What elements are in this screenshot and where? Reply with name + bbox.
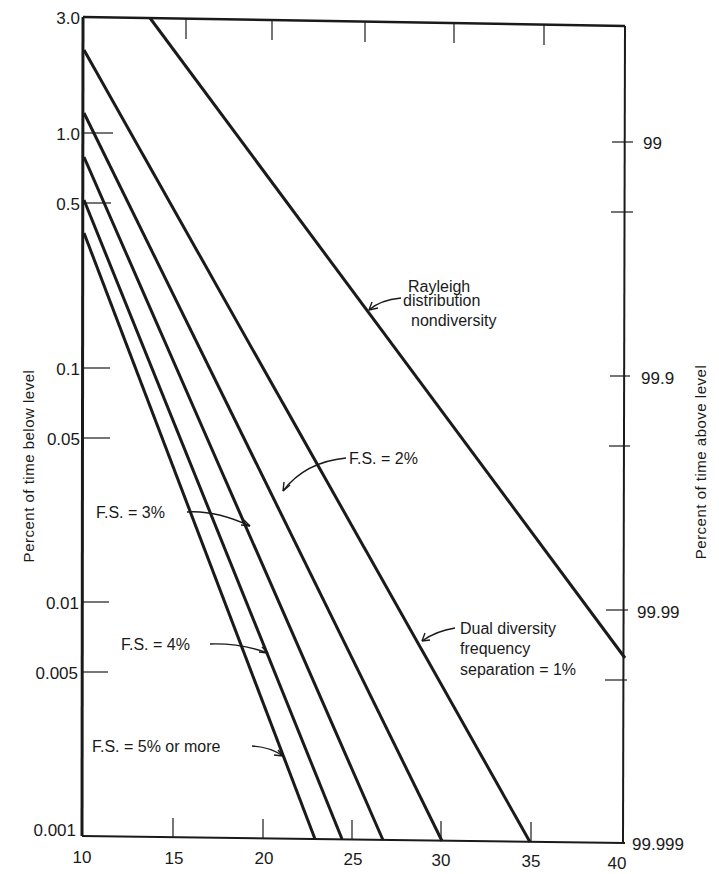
y-right-tick-99.999: 99.999 <box>632 835 684 854</box>
fade-distribution-chart: 3.0 1.0 0.5 0.1 0.05 0.01 0.005 0.001 99… <box>0 0 719 874</box>
ann-fs-2pct: F.S. = 2% <box>349 450 418 467</box>
x-tick-10: 10 <box>73 848 92 867</box>
y-tick-0.5: 0.5 <box>56 195 80 214</box>
y-tick-0.1: 0.1 <box>56 360 80 379</box>
ann-rayleigh-line2: distribution <box>403 292 480 309</box>
y-tick-0.01: 0.01 <box>46 594 79 613</box>
y-tick-0.05: 0.05 <box>47 430 80 449</box>
data-lines <box>84 18 625 842</box>
x-tick-30: 30 <box>432 851 451 870</box>
ann-fs-5pct: F.S. = 5% or more <box>92 738 221 755</box>
y-right-tick-99.9: 99.9 <box>641 369 674 388</box>
ann-dual-line1: Dual diversity <box>460 620 556 637</box>
line-rayleigh <box>150 18 625 658</box>
line-fs-2pct <box>84 113 442 841</box>
x-tick-20: 20 <box>255 849 274 868</box>
line-dual-1pct <box>84 50 530 842</box>
ann-fs-3pct: F.S. = 3% <box>96 504 165 521</box>
x-tick-35: 35 <box>522 852 541 871</box>
y-right-tick-99.99: 99.99 <box>637 603 680 622</box>
y-axis-title-left: Percent of time below level <box>20 370 37 563</box>
x-tick-40: 40 <box>608 854 627 873</box>
ann-fs-4pct: F.S. = 4% <box>121 636 190 653</box>
y-tick-0.005: 0.005 <box>35 664 78 683</box>
x-tick-25: 25 <box>344 850 363 869</box>
plot-frame <box>82 17 625 843</box>
ann-dual-line2: frequency <box>460 640 530 657</box>
ann-rayleigh-line3: nondiversity <box>411 312 496 329</box>
y-tick-0.001: 0.001 <box>33 821 76 840</box>
x-tick-labels: 10 15 20 25 30 35 40 <box>73 848 627 873</box>
y-tick-3.0: 3.0 <box>56 9 80 28</box>
annotation-arrows <box>187 298 455 756</box>
y-axis-title-right: Percent of time above level <box>692 365 709 559</box>
y-right-tick-99: 99 <box>643 134 662 153</box>
annotations: Rayleigh distribution nondiversity F.S. … <box>92 278 576 755</box>
right-axis-ticks <box>605 142 633 680</box>
y-tick-1.0: 1.0 <box>56 125 80 144</box>
left-tick-labels: 3.0 1.0 0.5 0.1 0.05 0.01 0.005 0.001 <box>33 9 80 840</box>
right-tick-labels: 99 99.9 99.99 99.999 <box>632 134 684 854</box>
ann-dual-line3: separation = 1% <box>460 661 576 678</box>
x-tick-15: 15 <box>165 849 184 868</box>
arrow-fs2 <box>283 458 346 491</box>
arrow-dual <box>422 628 455 641</box>
arrow-rayleigh <box>369 298 401 310</box>
